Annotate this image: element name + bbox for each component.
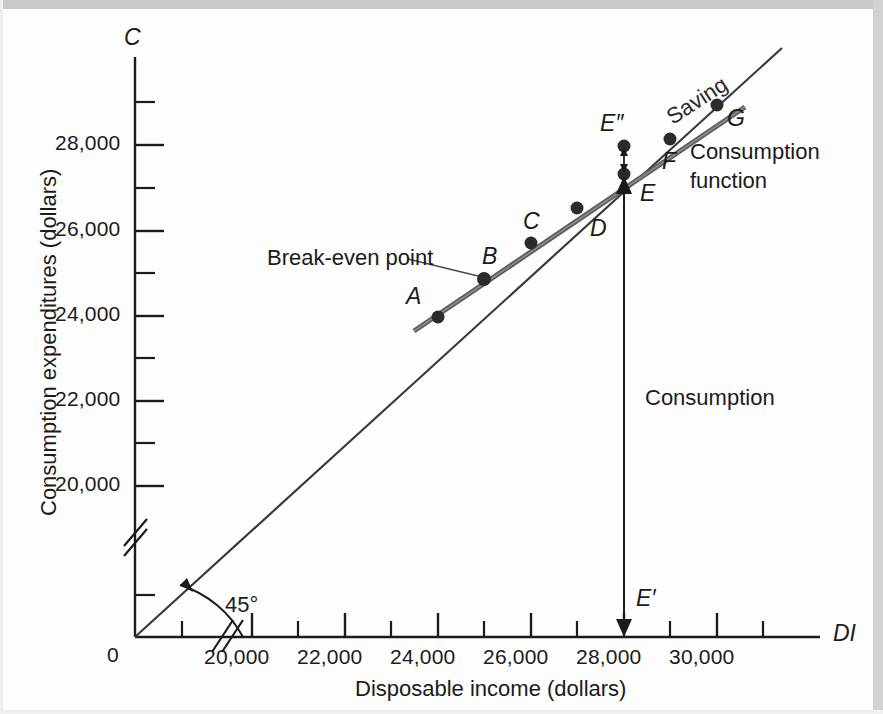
- point-label-g: G: [727, 105, 745, 132]
- y-tick-label-26000: 26,000: [55, 217, 120, 241]
- point-label-e: E: [640, 180, 655, 207]
- angle-label: 45°: [225, 592, 258, 618]
- y-axis-title: Consumption expenditures (dollars): [36, 169, 62, 516]
- point-label-e-prime: E′: [636, 585, 656, 612]
- y-tick-label-22000: 22,000: [55, 387, 120, 411]
- x-tick-label-30000: 30,000: [669, 645, 734, 669]
- x-axis-title: Disposable income (dollars): [355, 676, 626, 702]
- data-point-c: [525, 237, 538, 250]
- break-even-point-label: Break-even point: [267, 245, 433, 271]
- x-tick-label-26000: 26,000: [483, 645, 548, 669]
- origin-label: 0: [107, 643, 119, 667]
- data-point-f: [664, 133, 677, 146]
- x-tick-label-22000: 22,000: [297, 645, 362, 669]
- data-point-d: [571, 202, 584, 215]
- point-label-b: B: [482, 243, 497, 270]
- x-tick-label-28000: 28,000: [576, 645, 641, 669]
- point-label-d: D: [590, 215, 607, 242]
- forty-five-degree-line: [135, 48, 782, 637]
- consumption-bracket-label: Consumption: [645, 385, 775, 411]
- x-tick-label-20000: 20,000: [204, 645, 269, 669]
- y-axis-letter: C: [124, 24, 141, 51]
- y-tick-label-28000: 28,000: [55, 131, 120, 155]
- data-point-a: [432, 311, 445, 324]
- point-label-e-double-prime: E″: [600, 110, 623, 137]
- y-tick-label-20000: 20,000: [55, 472, 120, 496]
- point-label-f: F: [662, 148, 676, 175]
- data-point-b: [477, 272, 491, 286]
- x-axis-letter: DI: [833, 620, 856, 647]
- consumption-function-label-line2: function: [690, 168, 767, 194]
- y-tick-label-24000: 24,000: [55, 302, 120, 326]
- point-label-a: A: [406, 283, 421, 310]
- point-label-c: C: [523, 208, 540, 235]
- x-axis-minor-ticks: [182, 621, 763, 637]
- consumption-vertical-arrow: [616, 176, 632, 637]
- x-tick-label-24000: 24,000: [390, 645, 455, 669]
- y-axis-major-ticks: [135, 145, 164, 486]
- consumption-function-label-line1: Consumption: [690, 139, 820, 165]
- consumption-function-chart: [0, 0, 883, 714]
